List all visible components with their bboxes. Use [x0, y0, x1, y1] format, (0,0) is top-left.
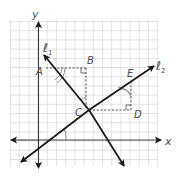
angle-C-arc: [81, 97, 86, 100]
point-D-label: D: [134, 109, 142, 120]
line-l1-down: [89, 110, 124, 166]
line-l1-label: ℓ1: [42, 41, 52, 57]
y-axis-label: y: [31, 8, 39, 21]
line-l1-up: [44, 55, 89, 110]
x-axis-label: x: [164, 135, 172, 148]
grid: [10, 20, 158, 166]
right-angle-B: [81, 68, 86, 73]
coordinate-geometry-figure: y x ℓ1 ℓ2 A B C D E: [0, 0, 178, 177]
point-E-label: E: [127, 68, 134, 79]
point-B-label: B: [87, 55, 94, 66]
line-l2-label: ℓ2: [155, 59, 165, 75]
point-C-label: C: [75, 107, 82, 118]
line-l2-up: [89, 66, 154, 110]
point-A-label: A: [35, 66, 43, 77]
